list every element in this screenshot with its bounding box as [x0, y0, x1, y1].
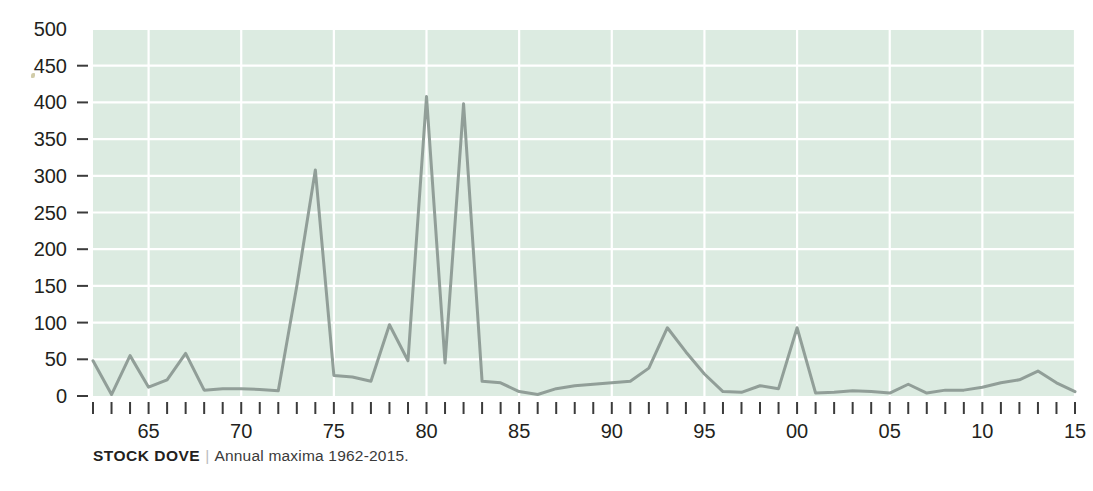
x-axis-tick-label: 00: [786, 420, 808, 442]
y-axis-tick-label: 300: [34, 165, 67, 187]
chart-caption: STOCK DOVE|Annual maxima 1962-2015.: [93, 447, 409, 465]
x-axis-tick-label: 75: [323, 420, 345, 442]
y-axis-tick-label: 450: [34, 55, 67, 77]
x-axis-tick-label: 70: [230, 420, 252, 442]
y-axis-tick-label: 500: [34, 18, 67, 40]
y-axis: 050100150200250300350400450500: [34, 18, 88, 407]
caption-species-name: STOCK DOVE: [93, 447, 200, 464]
y-axis-tick-label: 350: [34, 128, 67, 150]
x-axis-tick-label: 80: [415, 420, 437, 442]
y-axis-tick-label: 400: [34, 91, 67, 113]
x-axis-tick-label: 05: [879, 420, 901, 442]
y-axis-tick-label: 0: [56, 385, 67, 407]
x-axis-tick-label: 15: [1064, 420, 1086, 442]
x-axis-tick-label: 65: [137, 420, 159, 442]
caption-description: Annual maxima 1962-2015.: [214, 447, 408, 464]
x-axis-tick-label: 10: [971, 420, 993, 442]
stock-dove-chart-figure: 0501001502002503003504004505006570758085…: [0, 0, 1093, 491]
x-axis-tick-label: 95: [693, 420, 715, 442]
y-axis-tick-label: 50: [45, 348, 67, 370]
caption-separator: |: [200, 447, 214, 464]
line-chart-plot: 0501001502002503003504004505006570758085…: [0, 0, 1093, 445]
y-axis-tick-label: 100: [34, 312, 67, 334]
y-axis-tick-label: 250: [34, 202, 67, 224]
x-axis-tick-label: 85: [508, 420, 530, 442]
x-axis: 6570758085909500051015: [93, 402, 1086, 442]
x-axis-tick-label: 90: [601, 420, 623, 442]
y-axis-tick-label: 200: [34, 238, 67, 260]
y-axis-tick-label: 150: [34, 275, 67, 297]
